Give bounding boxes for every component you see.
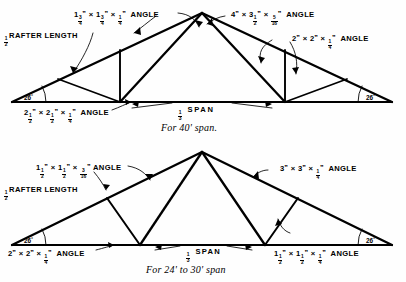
- upper-top-chord-right-label: 4” × 312” × 516” ANGLE: [231, 10, 315, 26]
- upper-web-right-strut: [202, 13, 285, 102]
- drawing-sheet: 134” × 134” × 14” ANGLE 4” × 312” × 516”…: [0, 0, 406, 282]
- lower-angle-arc-right: [358, 229, 362, 245]
- upper-pitch-angle-right: 26°: [366, 93, 375, 101]
- lower-top-chord-right-label: 3” × 3” × 14” ANGLE: [280, 164, 357, 180]
- upper-web-right-diagonal: [285, 79, 347, 102]
- lower-rafter-length-label: 12RAFTER LENGTH: [4, 186, 78, 201]
- upper-truss-caption: For 40' span.: [161, 122, 217, 133]
- lower-angle-arc-left: [42, 229, 46, 245]
- lower-span-label: 13 SPAN: [186, 248, 221, 263]
- upper-rafter-length-label: 12RAFTER LENGTH: [4, 32, 78, 47]
- lower-web-left-diagonal: [107, 198, 140, 245]
- lower-web-right-diagonal: [265, 198, 298, 245]
- lower-truss-caption: For 24' to 30' span: [146, 264, 226, 275]
- upper-web-left-strut: [120, 13, 202, 102]
- upper-pitch-angle-left: 26°: [24, 93, 33, 101]
- lower-web-label: 112” × 112” × 14” ANGLE: [274, 249, 359, 265]
- lower-pitch-angle-right: 26°: [366, 236, 375, 244]
- lower-top-chord-left-label: 112” × 112” × 316” ANGLE: [36, 163, 121, 179]
- upper-bottom-chord-label: 212” × 212” × 14” ANGLE: [24, 108, 109, 124]
- lower-bottom-chord-label: 2” × 2” × 14” ANGLE: [8, 249, 85, 265]
- lower-truss-arrowheads: [103, 171, 282, 250]
- upper-span-label: 13 SPAN: [178, 106, 215, 121]
- upper-top-chord-right: [202, 13, 392, 102]
- upper-top-chord-left-label: 134” × 134” × 14” ANGLE: [74, 10, 159, 26]
- upper-top-chord-left: [12, 13, 202, 102]
- upper-truss-geometry: [12, 13, 392, 102]
- upper-truss-leaders: [73, 13, 297, 110]
- upper-web-left-diagonal: [58, 79, 120, 102]
- lower-pitch-angle-left: 26°: [24, 236, 33, 244]
- upper-web-label: 2” × 2” × 14” ANGLE: [292, 34, 369, 50]
- lower-web-right-strut: [202, 152, 265, 245]
